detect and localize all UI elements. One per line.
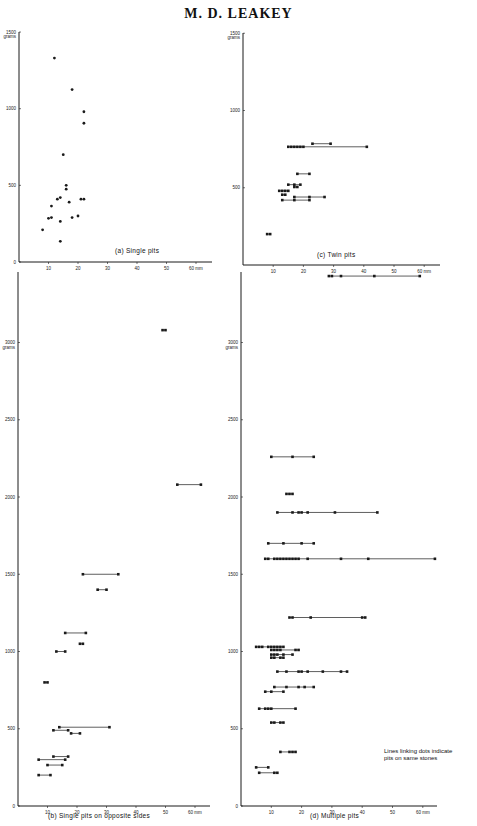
- data-point: [329, 142, 332, 145]
- x-tick-label: 50: [163, 810, 169, 815]
- data-point: [83, 110, 86, 113]
- data-point: [273, 721, 276, 724]
- data-point: [308, 196, 311, 199]
- data-point: [282, 542, 285, 545]
- data-point: [67, 755, 70, 758]
- data-point: [270, 456, 273, 459]
- data-point: [71, 88, 74, 91]
- data-point: [287, 146, 290, 149]
- x-tick-label: 10: [269, 810, 275, 815]
- data-point: [297, 670, 300, 673]
- data-point: [65, 188, 68, 191]
- data-point: [323, 196, 326, 199]
- data-point: [279, 649, 282, 652]
- data-point: [105, 588, 108, 591]
- data-point: [309, 616, 312, 619]
- data-point: [312, 686, 315, 689]
- y-unit-label: grams: [227, 35, 240, 40]
- x-tick-label: 60 mm: [416, 810, 430, 815]
- data-point: [266, 233, 269, 236]
- data-point: [296, 146, 299, 149]
- y-tick-label: 500: [230, 726, 238, 731]
- data-point: [282, 656, 285, 659]
- x-tick-label: 10: [271, 269, 277, 274]
- linked-stone-group: [79, 642, 85, 645]
- y-tick-label: 1500: [228, 572, 239, 577]
- data-point: [267, 542, 270, 545]
- y-tick-label: 0: [12, 804, 15, 809]
- linked-stone-group: [70, 732, 81, 735]
- data-point: [276, 646, 279, 649]
- linked-stone-group: [293, 186, 299, 189]
- data-point: [261, 646, 264, 649]
- data-point: [82, 573, 85, 576]
- linked-stone-group: [287, 183, 302, 186]
- linked-stone-group: [161, 329, 167, 332]
- x-tick-label: 50: [164, 266, 170, 271]
- data-point: [41, 228, 44, 231]
- data-point: [255, 766, 258, 769]
- data-point: [276, 653, 279, 656]
- data-point: [328, 275, 331, 278]
- data-point: [273, 558, 276, 561]
- data-point: [296, 173, 299, 176]
- data-point: [367, 558, 370, 561]
- data-point: [300, 511, 303, 514]
- data-point: [267, 558, 270, 561]
- data-point: [293, 196, 296, 199]
- linked-stone-group: [258, 771, 279, 774]
- data-point: [322, 670, 325, 673]
- data-point: [291, 653, 294, 656]
- data-point: [267, 766, 270, 769]
- y-unit-label: grams: [2, 345, 15, 350]
- y-tick-label: 500: [232, 185, 240, 190]
- data-point: [361, 616, 364, 619]
- data-point: [108, 726, 111, 729]
- linked-stone-group: [46, 764, 63, 767]
- linked-stone-group: [328, 275, 422, 278]
- data-point: [83, 122, 86, 125]
- data-point: [340, 558, 343, 561]
- data-point: [273, 656, 276, 659]
- linked-stone-group: [258, 707, 297, 710]
- y-tick-label: 0: [13, 260, 16, 265]
- data-point: [258, 771, 261, 774]
- legend-note: Lines linking dots indicate: [384, 748, 453, 754]
- data-point: [294, 558, 297, 561]
- data-point: [71, 216, 74, 219]
- data-point: [264, 690, 267, 693]
- data-point: [270, 656, 273, 659]
- data-point: [299, 183, 302, 186]
- data-point: [53, 57, 56, 60]
- y-tick-label: 2000: [228, 495, 239, 500]
- data-point: [270, 690, 273, 693]
- data-point: [284, 190, 287, 193]
- data-point: [294, 751, 297, 754]
- y-tick-label: 1000: [228, 649, 239, 654]
- linked-stone-group: [278, 190, 290, 193]
- data-point: [49, 774, 52, 777]
- data-point: [278, 190, 281, 193]
- y-tick-label: 2000: [5, 495, 16, 500]
- x-tick-label: 20: [75, 266, 81, 271]
- linked-stone-group: [293, 196, 326, 199]
- data-point: [80, 198, 83, 201]
- panel-caption: (a) Single pits: [115, 247, 160, 255]
- data-point: [285, 493, 288, 496]
- linked-stone-group: [276, 670, 348, 673]
- data-point: [288, 493, 291, 496]
- data-point: [273, 771, 276, 774]
- data-point: [52, 729, 55, 732]
- data-point: [288, 751, 291, 754]
- linked-stone-group: [55, 650, 66, 653]
- linked-stone-group: [296, 173, 311, 176]
- linked-stone-group: [288, 616, 366, 619]
- x-tick-label: 60 mm: [417, 269, 431, 274]
- figure-plots: 102030405060 mm050010001500grams(a) Sing…: [0, 0, 477, 826]
- data-point: [59, 240, 62, 243]
- linked-stone-group: [37, 758, 66, 761]
- data-point: [56, 198, 59, 201]
- data-point: [373, 275, 376, 278]
- data-point: [79, 642, 82, 645]
- data-point: [279, 646, 282, 649]
